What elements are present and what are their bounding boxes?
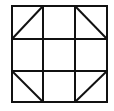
diagonal-top-right [75,6,107,39]
diagonal-bottom-right [75,71,107,102]
quilt-grid-diagram [0,0,114,111]
outer-frame [12,6,107,102]
grid-lines [12,6,107,102]
diagonal-bottom-left [12,71,43,102]
diagonal-top-left [12,6,43,39]
corner-diagonals [12,6,107,102]
